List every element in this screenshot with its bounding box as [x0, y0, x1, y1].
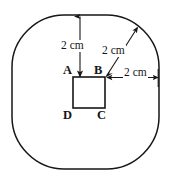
vertex-label-b: B: [94, 64, 103, 77]
dimension-label-right: 2 cm: [123, 67, 148, 79]
vertex-label-a: A: [63, 64, 72, 77]
inner-square-abcd: [73, 77, 105, 108]
outer-boundary-shape: [12, 15, 159, 169]
figure-canvas: [0, 0, 171, 182]
vertex-label-d: D: [63, 109, 72, 122]
dimension-label-top: 2 cm: [60, 40, 85, 52]
geometry-figure: A B C D 2 cm 2 cm 2 cm: [0, 0, 171, 182]
vertex-label-c: C: [97, 109, 106, 122]
dimension-label-corner: 2 cm: [101, 45, 126, 57]
